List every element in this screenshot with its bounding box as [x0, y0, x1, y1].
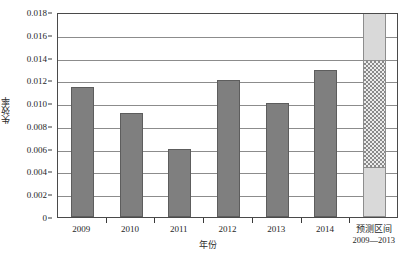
y-tick-label: 0.008 [27, 122, 47, 131]
y-tick-mark [48, 218, 52, 219]
x-tick-label: 2013 [267, 224, 285, 235]
y-axis-tick-labels: 00.0020.0040.0060.0080.0100.0120.0140.01… [8, 13, 52, 218]
y-tick-mark [48, 104, 52, 105]
y-tick-label: 0.010 [27, 100, 47, 109]
x-tick-mark [252, 218, 253, 223]
bar [120, 113, 143, 217]
x-tick-label: 2012 [219, 224, 237, 235]
y-tick-label: 0.006 [27, 145, 47, 154]
bar [168, 149, 191, 217]
y-tick-label: 0.012 [27, 77, 47, 86]
y-tick-mark [48, 81, 52, 82]
x-tick-label: 2010 [121, 224, 139, 235]
y-tick-label: 0 [43, 214, 48, 223]
y-tick-mark [48, 13, 52, 14]
bar [71, 87, 94, 217]
prediction-interval-bar [363, 13, 386, 217]
x-tick-label: 2011 [170, 224, 188, 235]
chart-figure: 失效率 00.0020.0040.0060.0080.0100.0120.014… [0, 0, 415, 261]
y-tick-mark [48, 58, 52, 59]
y-tick-label: 0.018 [27, 9, 47, 18]
gridline [58, 60, 397, 61]
x-tick-mark [106, 218, 107, 223]
x-axis-title: 年份 [0, 240, 415, 250]
x-tick-mark [349, 218, 350, 223]
bar [217, 80, 240, 217]
y-tick-mark [48, 35, 52, 36]
x-tick-mark [203, 218, 204, 223]
y-tick-mark [48, 195, 52, 196]
y-tick-label: 0.002 [27, 191, 47, 200]
y-tick-label: 0.016 [27, 31, 47, 40]
x-tick-mark [154, 218, 155, 223]
y-tick-mark [48, 172, 52, 173]
y-tick-label: 0.004 [27, 168, 47, 177]
prediction-interval-band [364, 60, 385, 168]
y-tick-label: 0.014 [27, 54, 47, 63]
bar [314, 70, 337, 217]
bar [266, 103, 289, 217]
plot-area [57, 13, 398, 218]
x-tick-label: 2009 [72, 224, 90, 235]
x-tick-label: 2014 [316, 224, 334, 235]
x-tick-mark [301, 218, 302, 223]
gridline [58, 37, 397, 38]
y-tick-mark [48, 149, 52, 150]
y-tick-mark [48, 126, 52, 127]
